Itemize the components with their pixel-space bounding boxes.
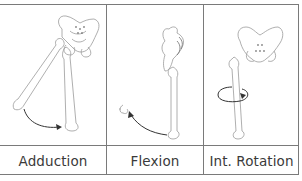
label-adduction: Adduction bbox=[0, 146, 106, 175]
hip-flexion-illustration bbox=[107, 5, 203, 146]
hip-internal-rotation-illustration bbox=[204, 5, 299, 146]
panel-flexion bbox=[107, 5, 203, 146]
hip-adduction-illustration bbox=[0, 5, 106, 146]
motion-figure-table: Adduction Flexion Int. Rotation bbox=[0, 4, 299, 175]
panel-internal-rotation bbox=[204, 5, 299, 146]
panel-adduction bbox=[0, 5, 106, 146]
label-internal-rotation: Int. Rotation bbox=[204, 146, 299, 175]
label-flexion: Flexion bbox=[107, 146, 203, 175]
